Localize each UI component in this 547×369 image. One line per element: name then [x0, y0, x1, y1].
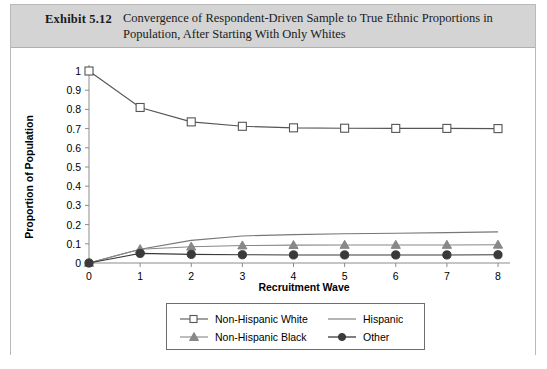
- data-point: [443, 124, 451, 132]
- data-point: [340, 240, 349, 248]
- y-axis-title: Proportion of Population: [23, 115, 35, 239]
- data-point: [238, 251, 246, 259]
- data-point: [136, 249, 144, 257]
- line-chart: 00.10.20.30.40.50.60.70.80.91 012345678 …: [11, 49, 537, 309]
- exhibit-title-line-2: Population, After Starting With Only Whi…: [123, 27, 346, 41]
- svg-text:0.5: 0.5: [66, 161, 81, 173]
- data-point: [341, 124, 349, 132]
- svg-text:0: 0: [86, 270, 92, 282]
- svg-text:6: 6: [393, 270, 399, 282]
- data-point: [391, 240, 400, 248]
- chart-axes: [89, 65, 510, 263]
- legend-label-other: Other: [363, 331, 389, 343]
- data-point: [85, 259, 93, 267]
- svg-text:0.8: 0.8: [66, 103, 81, 115]
- plain-line-icon: [327, 313, 357, 325]
- legend-label-hispanic: Hispanic: [363, 313, 403, 325]
- svg-text:2: 2: [188, 270, 194, 282]
- svg-text:0.4: 0.4: [66, 180, 81, 192]
- svg-text:7: 7: [444, 270, 450, 282]
- data-point: [392, 251, 400, 259]
- data-point: [187, 250, 195, 258]
- exhibit-title-line-1: Convergence of Respondent-Driven Sample …: [123, 11, 493, 25]
- exhibit-number-label: Exhibit 5.12: [45, 12, 112, 27]
- svg-text:3: 3: [239, 270, 245, 282]
- filled-triangle-line-icon: [179, 331, 209, 343]
- legend-label-non-hispanic-black: Non-Hispanic Black: [215, 331, 307, 343]
- data-point: [136, 103, 144, 111]
- svg-text:0: 0: [75, 257, 81, 269]
- data-point: [85, 67, 93, 75]
- legend-item-other: Other: [327, 329, 389, 345]
- svg-text:8: 8: [495, 270, 501, 282]
- data-point: [290, 124, 298, 132]
- series-line-non-hispanic-white: [89, 71, 498, 129]
- svg-text:0.7: 0.7: [66, 123, 81, 135]
- chart-series: [84, 67, 502, 267]
- data-point: [289, 251, 297, 259]
- data-point: [341, 251, 349, 259]
- legend-item-hispanic: Hispanic: [327, 311, 403, 327]
- data-point: [494, 125, 502, 133]
- exhibit-frame: Exhibit 5.12 Convergence of Respondent-D…: [10, 4, 536, 355]
- chart-legend: Non-Hispanic White Non-Hispanic Black Hi…: [166, 303, 425, 350]
- data-point: [238, 241, 247, 249]
- data-point: [494, 251, 502, 259]
- svg-text:0.3: 0.3: [66, 199, 81, 211]
- open-square-line-icon: [179, 313, 209, 325]
- svg-text:0.2: 0.2: [66, 219, 81, 231]
- legend-item-non-hispanic-white: Non-Hispanic White: [179, 311, 308, 327]
- svg-text:1: 1: [137, 270, 143, 282]
- data-point: [443, 251, 451, 259]
- data-point: [187, 118, 195, 126]
- exhibit-title: Convergence of Respondent-Driven Sample …: [123, 11, 518, 42]
- y-axis-ticks: 00.10.20.30.40.50.60.70.80.91: [66, 65, 89, 269]
- svg-text:0.6: 0.6: [66, 142, 81, 154]
- filled-circle-line-icon: [327, 331, 357, 343]
- data-point: [289, 241, 298, 249]
- x-axis-title: Recruitment Wave: [258, 281, 349, 293]
- data-point: [493, 240, 502, 248]
- svg-text:0.1: 0.1: [66, 238, 81, 250]
- legend-item-non-hispanic-black: Non-Hispanic Black: [179, 329, 307, 345]
- svg-text:1: 1: [75, 65, 81, 77]
- svg-text:0.9: 0.9: [66, 84, 81, 96]
- data-point: [392, 124, 400, 132]
- x-axis-ticks: 012345678: [86, 263, 501, 282]
- legend-label-non-hispanic-white: Non-Hispanic White: [215, 313, 308, 325]
- exhibit-header-band: Exhibit 5.12 Convergence of Respondent-D…: [11, 5, 535, 48]
- data-point: [442, 240, 451, 248]
- data-point: [238, 122, 246, 130]
